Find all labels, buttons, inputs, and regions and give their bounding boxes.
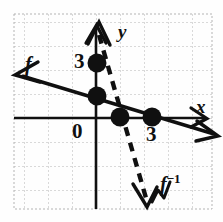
x-axis-tick-label-3: 3 bbox=[146, 124, 157, 145]
marked-point bbox=[88, 54, 107, 73]
y-axis-tick-label-3: 3 bbox=[74, 51, 85, 72]
y-axis-label: y bbox=[118, 22, 126, 41]
marked-point bbox=[111, 108, 130, 127]
curve-f-inverse-label-base: f bbox=[160, 173, 167, 195]
origin-label: 0 bbox=[72, 121, 83, 142]
graph-figure: y x f f−1 3 3 0 bbox=[0, 0, 223, 222]
curve-f-inverse-label: f−1 bbox=[160, 172, 181, 194]
x-axis-label: x bbox=[196, 97, 206, 116]
curve-f-inverse-label-exponent: −1 bbox=[167, 171, 181, 186]
marked-point bbox=[88, 87, 107, 106]
graph-canvas bbox=[0, 0, 223, 222]
curve-f-label: f bbox=[25, 54, 32, 74]
